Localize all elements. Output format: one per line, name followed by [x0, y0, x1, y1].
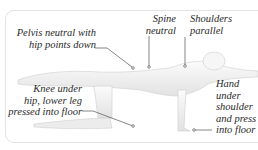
pelvis-callout: Pelvis neutral with hip points down — [4, 27, 96, 50]
head — [203, 52, 225, 70]
hand-dot — [193, 129, 196, 132]
shoulders-dot — [184, 65, 187, 68]
lower-leg — [34, 118, 112, 129]
spine-callout: Spine neutral — [116, 13, 176, 36]
pelvis-dot — [132, 67, 135, 70]
spine-dot — [148, 66, 151, 69]
shoulders-callout: Shoulders parallel — [190, 13, 258, 36]
hand-callout: Hand under shoulder and press into floor — [216, 78, 258, 136]
supporting-thigh — [94, 86, 112, 118]
supporting-arm — [178, 90, 190, 131]
knee-callout: Knee under hip, lower leg pressed into f… — [4, 83, 82, 118]
pelvis-leader — [95, 48, 132, 67]
knee-dot — [132, 125, 135, 128]
